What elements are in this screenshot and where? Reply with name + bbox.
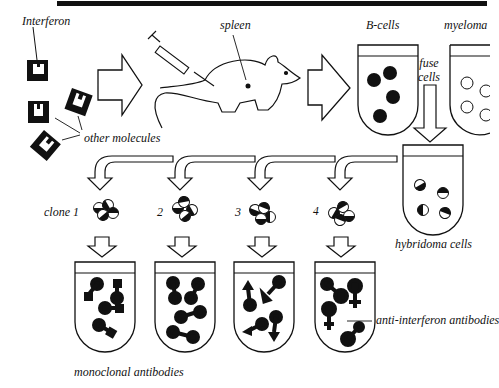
distribution-arrows xyxy=(88,156,397,190)
label-fuse: fuse xyxy=(418,56,440,70)
right-arrow-icon xyxy=(98,55,142,115)
antibody-tube-1 xyxy=(75,262,135,352)
label-interferon: Interferon xyxy=(22,14,70,29)
myeloma-tube xyxy=(450,45,490,135)
label-clone-3: 3 xyxy=(235,205,241,220)
down-arrow-icon xyxy=(168,237,196,257)
down-arrow-icon xyxy=(327,237,355,257)
clone-4-cluster xyxy=(326,199,354,227)
interferon-molecule-icon xyxy=(27,60,48,81)
clone-2-cluster xyxy=(173,196,200,224)
label-clone-4: 4 xyxy=(313,205,319,217)
spleen-dot xyxy=(246,84,251,89)
b-cells-tube xyxy=(358,45,418,135)
fuse-arrow-icon xyxy=(414,85,446,142)
hybridoma-tube xyxy=(403,145,463,235)
label-anti-interferon-antibodies: anti-interferon antibodies xyxy=(376,313,499,328)
label-clone-1: clone 1 xyxy=(44,205,79,220)
clone-3-cluster xyxy=(248,201,276,225)
antibody-tube-4 xyxy=(315,262,375,352)
other-molecule-icon xyxy=(28,101,49,123)
antibody-tube-3 xyxy=(234,262,294,352)
label-monoclonal-antibodies: monoclonal antibodies xyxy=(74,365,184,380)
label-clone-2: 2 xyxy=(157,205,163,220)
clone-1-cluster xyxy=(94,197,119,222)
label-b-cells: B-cells xyxy=(366,18,399,33)
syringe-icon xyxy=(148,31,214,86)
other-molecule-icon xyxy=(64,88,92,116)
label-hybridoma-cells: hybridoma cells xyxy=(395,237,472,252)
label-cells: cells xyxy=(418,70,440,84)
top-rule xyxy=(57,1,487,6)
other-molecule-icon xyxy=(30,130,61,161)
label-spleen: spleen xyxy=(220,18,251,33)
label-other-molecules: other molecules xyxy=(84,131,160,146)
right-arrow-icon xyxy=(308,55,350,120)
antibody-tube-2 xyxy=(155,262,215,352)
label-myeloma: myeloma xyxy=(444,18,487,33)
label-fuse-cells: fuse cells xyxy=(418,56,440,84)
down-arrow-icon xyxy=(88,237,116,257)
down-arrow-icon xyxy=(248,237,276,257)
